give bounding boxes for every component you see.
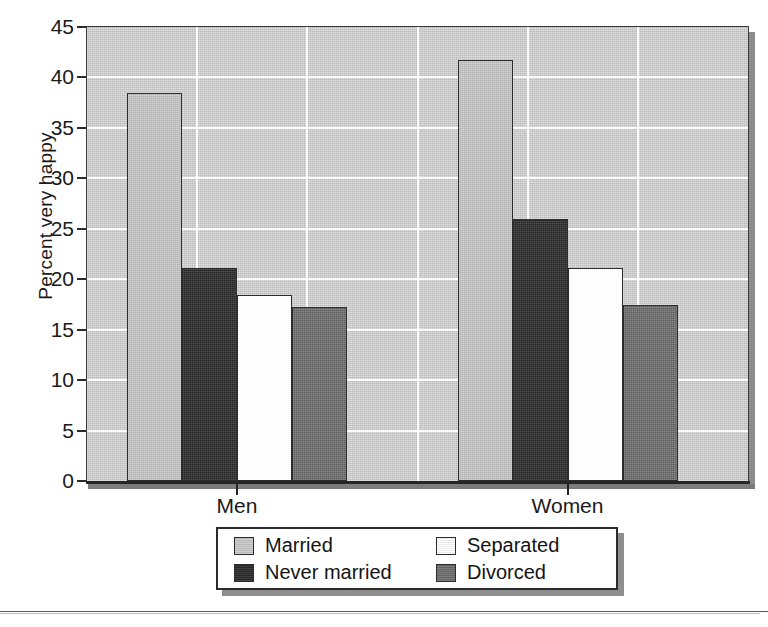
bar-women-married (458, 60, 513, 481)
y-axis-tick (77, 228, 86, 230)
bar-men-divorced (292, 307, 347, 481)
bar-women-divorced (623, 305, 678, 481)
y-axis-tick (77, 430, 86, 432)
page-divider-rule-secondary (0, 613, 760, 614)
y-axis-tick-label: 30 (51, 167, 74, 188)
y-axis-tick (77, 329, 86, 331)
plot-area (86, 26, 749, 482)
chart-legend: MarriedSeparatedNever marriedDivorced (216, 527, 618, 590)
bar-men-married (127, 93, 182, 481)
x-axis-label-men: Men (217, 494, 258, 518)
y-axis-tick (77, 127, 86, 129)
legend-item-divorced[interactable]: Divorced (436, 561, 546, 584)
y-axis-tick (77, 26, 86, 28)
legend-swatch-icon (234, 537, 254, 555)
bar-chart-figure: Percent very happy 051015202530354045 Me… (0, 0, 768, 627)
y-axis-tick-label: 0 (62, 470, 74, 491)
x-axis-line (86, 481, 750, 484)
y-axis-tick-label: 40 (51, 66, 74, 87)
gridline-vertical (417, 27, 419, 481)
legend-label: Never married (265, 561, 392, 584)
legend-item-never-married[interactable]: Never married (234, 561, 392, 584)
bar-men-separated (237, 295, 292, 481)
y-axis-tick-label: 10 (51, 369, 74, 390)
legend-item-separated[interactable]: Separated (436, 534, 559, 557)
y-axis-tick-label: 35 (51, 117, 74, 138)
legend-swatch-icon (436, 537, 456, 555)
bar-women-never-married (513, 219, 568, 481)
legend-label: Married (265, 534, 333, 557)
x-axis-label-women: Women (532, 494, 604, 518)
y-axis-tick (77, 177, 86, 179)
y-axis-tick-label: 45 (51, 16, 74, 37)
y-axis-tick (77, 76, 86, 78)
legend-swatch-icon (436, 564, 456, 582)
y-axis-tick-label: 25 (51, 218, 74, 239)
y-axis-tick-label: 15 (51, 319, 74, 340)
legend-label: Separated (467, 534, 559, 557)
x-axis-shadow (88, 484, 755, 489)
legend-item-married[interactable]: Married (234, 534, 333, 557)
bar-men-never-married (182, 268, 237, 481)
legend-swatch-icon (234, 564, 254, 582)
y-axis-tick-label: 5 (62, 420, 74, 441)
y-axis-tick (77, 480, 86, 482)
bar-women-separated (568, 268, 623, 481)
y-axis-tick-label: 20 (51, 268, 74, 289)
page-divider-rule (0, 611, 768, 612)
y-axis-tick (77, 278, 86, 280)
y-axis-tick (77, 379, 86, 381)
legend-label: Divorced (467, 561, 546, 584)
